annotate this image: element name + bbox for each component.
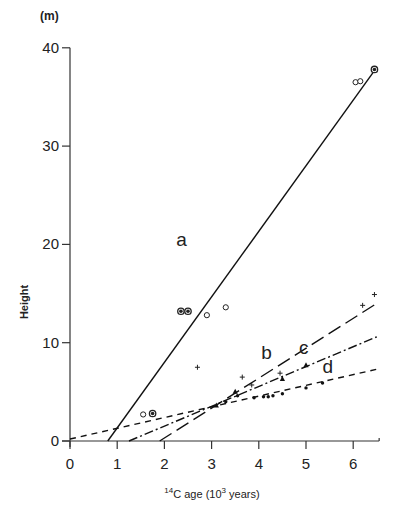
data-point-circle-dot <box>185 308 191 314</box>
y-axis-title: Height <box>18 285 30 320</box>
data-point-triangle <box>280 376 285 381</box>
line-label-a: a <box>176 229 187 250</box>
data-point-open-circle <box>141 412 146 417</box>
data-point-dot <box>271 394 274 397</box>
y-tick-label: 0 <box>51 432 59 449</box>
tick-labels: 0102030400123456 <box>42 39 357 472</box>
line-c <box>129 337 377 441</box>
data-point-triangle <box>303 362 308 367</box>
y-unit-label: (m) <box>40 9 59 23</box>
regression-lines <box>70 67 377 441</box>
data-point-plus <box>360 303 365 308</box>
data-point-open-circle <box>204 313 209 318</box>
data-point-open-circle <box>358 79 363 84</box>
data-point-dot <box>281 392 284 395</box>
data-point-open-circle <box>223 305 228 310</box>
x-tick-label: 5 <box>302 455 310 472</box>
x-tick-label: 2 <box>160 455 168 472</box>
x-axis-title: 14C age (103 years) <box>164 486 259 500</box>
line-d <box>70 369 377 439</box>
data-point-dot <box>262 395 265 398</box>
chart: 0102030400123456 abcd (m) Height 14C age… <box>0 0 397 517</box>
line-label-c: c <box>299 337 309 358</box>
y-tick-label: 10 <box>42 334 59 351</box>
x-axis-title-main: C age (10 <box>173 488 221 500</box>
data-point-dot <box>224 400 227 403</box>
x-axis-title-post: years) <box>226 488 260 500</box>
x-tick-label: 1 <box>113 455 121 472</box>
line-label-d: d <box>323 356 334 377</box>
line-labels: abcd <box>176 229 333 377</box>
data-point-dot <box>236 394 239 397</box>
data-point-plus <box>195 365 200 370</box>
data-point-plus <box>278 371 283 376</box>
y-tick-label: 30 <box>42 137 59 154</box>
data-point-plus <box>240 375 245 380</box>
data-point-circle-dot <box>371 66 377 72</box>
x-tick-label: 6 <box>349 455 357 472</box>
y-tick-label: 40 <box>42 39 59 56</box>
data-point-circle-dot <box>178 308 184 314</box>
x-tick-label: 3 <box>207 455 215 472</box>
y-tick-label: 20 <box>42 235 59 252</box>
data-point-dot <box>252 396 255 399</box>
data-point-circle-dot <box>149 410 155 416</box>
x-tick-label: 0 <box>66 455 74 472</box>
x-tick-label: 4 <box>255 455 263 472</box>
data-point-dot <box>304 386 307 389</box>
axes <box>62 48 379 449</box>
data-point-plus <box>372 292 377 297</box>
line-label-b: b <box>261 342 272 363</box>
data-point-dot <box>267 395 270 398</box>
data-point-dot <box>321 381 324 384</box>
line-a <box>108 67 377 441</box>
